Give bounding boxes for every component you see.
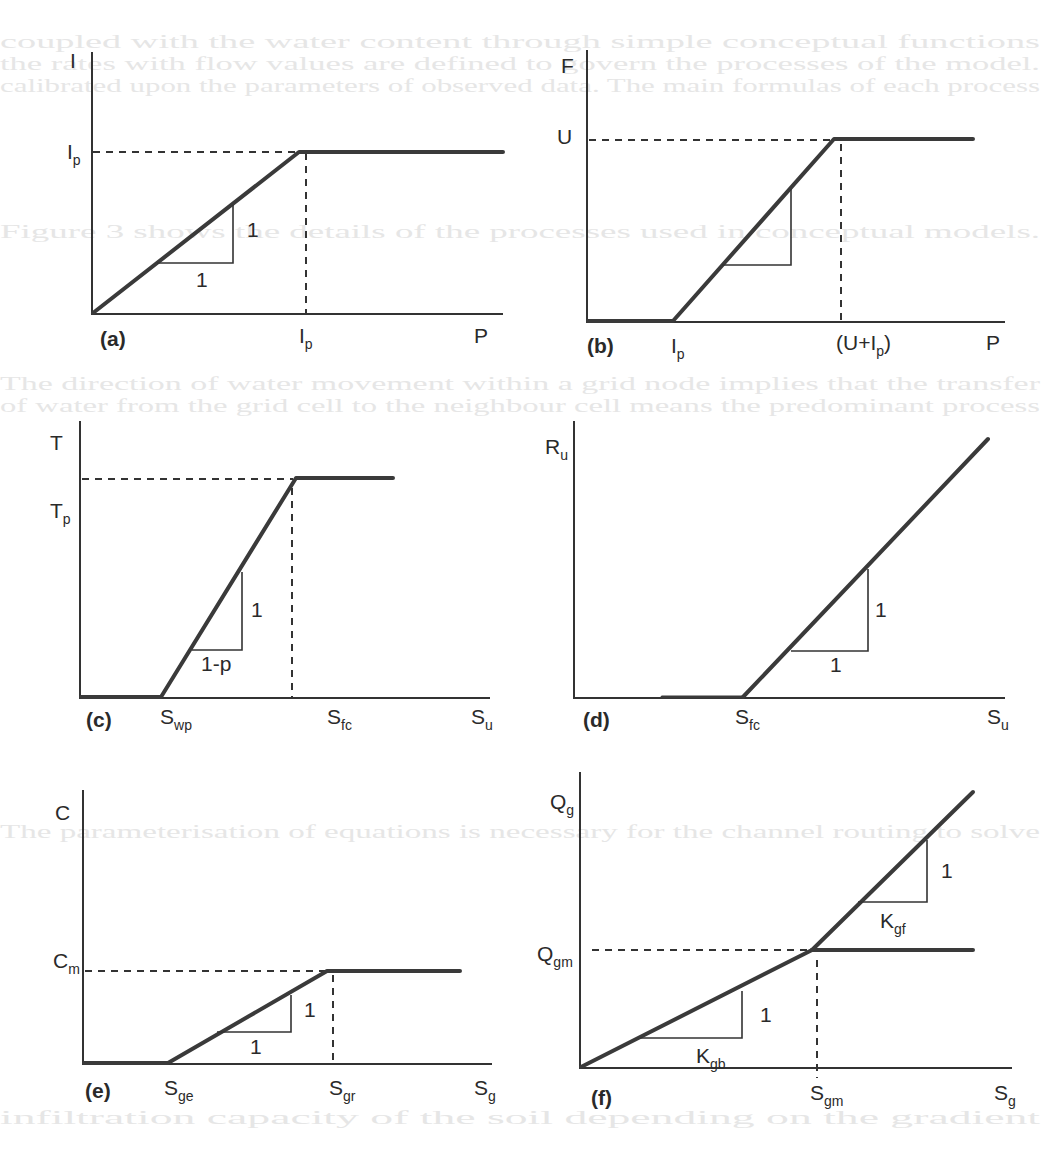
bleed-line: The direction of water movement within a… xyxy=(0,373,1041,394)
panel-label: (e) xyxy=(85,1079,111,1102)
y-tick-cm: Cm xyxy=(53,949,80,977)
slope-triangle xyxy=(791,569,868,651)
capillary-curve xyxy=(84,971,460,1063)
bleed-line: the rates with flow values are defined t… xyxy=(0,53,1040,74)
panel-label: (c) xyxy=(86,708,112,731)
x-axis-label: Su xyxy=(987,705,1009,733)
figure-conceptual-process-functions: coupled with the water content through s… xyxy=(0,0,1059,1150)
bleed-line: coupled with the water content through s… xyxy=(0,31,1040,52)
panel-d-recharge: 1 1 Ru Sfc Su (d) xyxy=(545,421,1009,733)
x-tick-sgm: Sgm xyxy=(810,1081,843,1109)
y-axis-label: F xyxy=(561,54,574,77)
y-tick-qgm: Qgm xyxy=(537,942,573,970)
panel-label: (f) xyxy=(591,1086,612,1109)
triangle-rise-label: 1 xyxy=(251,598,263,621)
x-tick-sge: Sge xyxy=(164,1076,194,1104)
bleed-line: infiltration capacity of the soil depend… xyxy=(0,1107,1042,1128)
triangle-run-label: 1 xyxy=(250,1035,262,1058)
x-axis-label: Sg xyxy=(474,1076,496,1104)
recharge-curve xyxy=(743,439,988,697)
x-tick-u-plus-ip: (U+Ip) xyxy=(836,331,891,359)
x-axis-label: P xyxy=(474,324,488,347)
panel-label: (a) xyxy=(100,327,126,350)
y-tick-ip: Ip xyxy=(67,140,81,168)
x-tick-sgr: Sgr xyxy=(329,1076,356,1104)
triangle-kgb-rise-label: 1 xyxy=(760,1003,772,1026)
y-axis-label: Qg xyxy=(550,790,574,818)
triangle-rise-label: 1 xyxy=(247,218,259,241)
triangle-run-label: 1-p xyxy=(201,652,231,675)
panel-c-transpiration: 1 1-p T Tp Swp Sfc Su (c) xyxy=(50,421,493,733)
x-tick-sfc: Sfc xyxy=(735,705,760,733)
y-tick-tp: Tp xyxy=(50,499,71,527)
triangle-run-label: 1 xyxy=(196,268,208,291)
y-axis-label: T xyxy=(50,431,63,454)
triangle-kgf-run-label: Kgf xyxy=(880,909,906,937)
x-tick-sfc: Sfc xyxy=(327,705,352,733)
transpiration-curve xyxy=(81,478,393,697)
triangle-run-label: 1 xyxy=(830,653,842,676)
x-tick-swp: Swp xyxy=(160,705,192,733)
triangle-kgf-rise-label: 1 xyxy=(941,859,953,882)
triangle-rise-label: 1 xyxy=(875,598,887,621)
bleed-line: The parameterisation of equations is nec… xyxy=(0,821,1040,842)
x-tick-ip: Ip xyxy=(299,324,313,352)
x-axis-label: Su xyxy=(471,705,493,733)
x-tick-ip: Ip xyxy=(671,334,685,362)
bleed-line: calibrated upon the parameters of observ… xyxy=(0,75,1040,96)
x-axis-label: Sg xyxy=(994,1081,1016,1109)
x-axis-label: P xyxy=(986,331,1000,354)
panel-label: (b) xyxy=(587,334,614,357)
y-tick-u: U xyxy=(557,125,572,148)
bleed-through-text: coupled with the water content through s… xyxy=(0,31,1042,1128)
bleed-line: of water from the grid cell to the neigh… xyxy=(0,395,1040,416)
y-axis-label: Ru xyxy=(545,435,568,463)
y-axis-label: C xyxy=(55,801,70,824)
panel-b-infiltration: F U Ip (U+Ip) P (b) xyxy=(557,50,1005,362)
bleed-line: Figure 3 shows the details of the proces… xyxy=(0,221,1040,242)
panel-label: (d) xyxy=(583,708,610,731)
y-axis-label: I xyxy=(70,49,76,72)
triangle-rise-label: 1 xyxy=(304,998,316,1021)
